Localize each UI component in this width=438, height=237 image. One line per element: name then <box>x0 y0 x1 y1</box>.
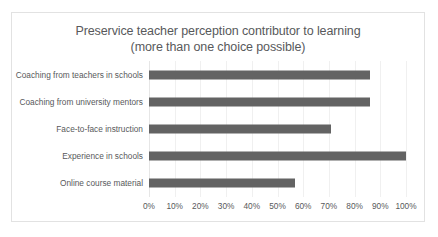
x-tick-label: 10% <box>166 201 183 211</box>
bar[interactable] <box>149 152 406 161</box>
plot-area: Coaching from teachers in schoolsCoachin… <box>149 61 406 197</box>
chart-title-line-1: Preservice teacher perception contributo… <box>12 23 424 39</box>
category-label: Face-to-face instruction <box>56 124 143 134</box>
x-tick-label: 30% <box>218 201 235 211</box>
bar-row: Coaching from university mentors <box>149 88 406 115</box>
x-tick-label: 60% <box>295 201 312 211</box>
bar[interactable] <box>149 70 370 79</box>
chart-container: Preservice teacher perception contributo… <box>11 12 425 222</box>
x-tick-label: 40% <box>243 201 260 211</box>
x-axis-tick-labels: 0%10%20%30%40%50%60%70%80%90%100% <box>149 201 406 215</box>
bar-row: Coaching from teachers in schools <box>149 61 406 88</box>
chart-title-line-2: (more than one choice possible) <box>12 39 424 55</box>
x-tick-label: 100% <box>395 201 416 211</box>
x-tick-label: 90% <box>372 201 389 211</box>
category-label: Online course material <box>60 178 143 188</box>
bar[interactable] <box>149 97 370 106</box>
x-tick-label: 50% <box>269 201 286 211</box>
bar[interactable] <box>149 124 331 133</box>
chart-title: Preservice teacher perception contributo… <box>12 23 424 55</box>
x-tick-label: 70% <box>321 201 338 211</box>
category-label: Coaching from teachers in schools <box>16 70 143 80</box>
bar-row: Face-to-face instruction <box>149 115 406 142</box>
x-tick-label: 80% <box>346 201 363 211</box>
bar[interactable] <box>149 179 295 188</box>
x-tick-label: 20% <box>192 201 209 211</box>
bar-row: Experience in schools <box>149 143 406 170</box>
category-label: Experience in schools <box>62 151 143 161</box>
gridline-100% <box>406 61 407 197</box>
category-label: Coaching from university mentors <box>19 97 143 107</box>
x-tick-label: 0% <box>143 201 155 211</box>
bar-row: Online course material <box>149 170 406 197</box>
